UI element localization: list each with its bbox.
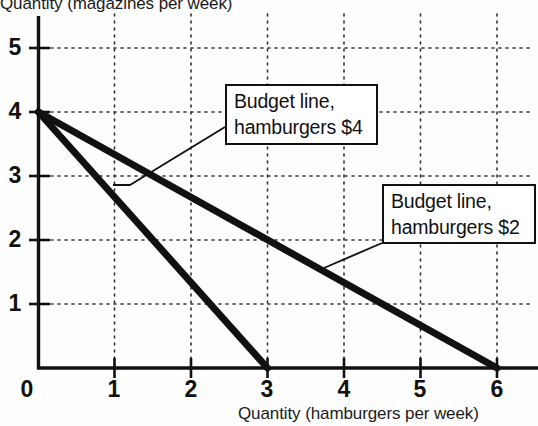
- x-tick-label-4: 4: [333, 376, 355, 403]
- y-tick-label-5: 5: [4, 34, 26, 61]
- annotation-hamburgers-2-line1: Budget line,: [391, 190, 492, 212]
- annotation-budget-line-hamburgers-4: Budget line, hamburgers $4: [225, 84, 378, 145]
- y-tick-label-2: 2: [4, 226, 26, 253]
- x-tick-label-1: 1: [103, 376, 125, 403]
- annotation-budget-line-hamburgers-2: Budget line, hamburgers $2: [382, 184, 536, 244]
- x-tick-label-2: 2: [180, 376, 202, 403]
- annotation-hamburgers-4-line2: hamburgers $4: [234, 115, 369, 141]
- annotation-hamburgers-4-line1: Budget line,: [234, 90, 335, 112]
- leader-line-hamburgers-2: [324, 243, 382, 268]
- x-tick-label-0: 0: [16, 376, 38, 403]
- x-tick-label-6: 6: [486, 376, 508, 403]
- x-tick-label-5: 5: [409, 376, 431, 403]
- y-tick-label-3: 3: [4, 162, 26, 189]
- annotation-hamburgers-2-line2: hamburgers $2: [391, 215, 527, 241]
- leader-line-hamburgers-2-helper: [324, 205, 344, 268]
- y-tick-label-1: 1: [4, 290, 26, 317]
- budget-line-chart-figure: Quantity (magazines per week): [0, 0, 538, 426]
- x-tick-label-3: 3: [256, 376, 278, 403]
- y-tick-label-4: 4: [4, 98, 26, 125]
- x-axis-title: Quantity (hamburgers per week): [238, 404, 479, 424]
